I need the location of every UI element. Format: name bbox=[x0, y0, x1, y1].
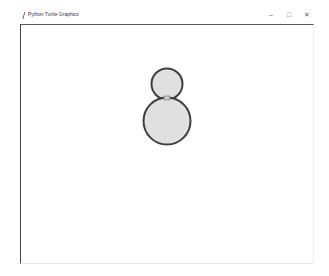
large-circle bbox=[144, 98, 191, 145]
small-circle bbox=[152, 69, 183, 100]
drawing-layer bbox=[0, 0, 329, 276]
turtle-window: Python Turtle Graphics – □ ✕ bbox=[0, 0, 329, 276]
turtle-cursor-icon bbox=[164, 96, 170, 100]
